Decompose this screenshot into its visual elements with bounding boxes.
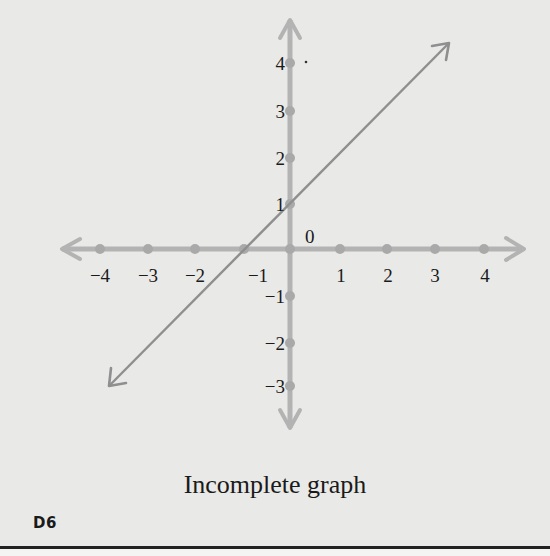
figure-caption: Incomplete graph — [0, 470, 550, 500]
x-tick-label: 4 — [480, 265, 490, 286]
y-tick-label: 4 — [276, 53, 286, 74]
x-tick-label: −4 — [90, 265, 111, 286]
x-tick-label: −3 — [138, 265, 158, 286]
coordinate-plane: −4 −3 −2 −1 1 2 3 4 0 4 3 2 1 −1 −2 −3 — [0, 0, 550, 470]
y-axis — [280, 20, 300, 428]
speck-mark — [305, 61, 308, 64]
y-tick-label: 3 — [276, 101, 286, 122]
x-tick-label: 1 — [336, 265, 346, 286]
x-tick-label: −1 — [248, 265, 268, 286]
page-reference: D6 — [33, 514, 57, 532]
y-tick-label: −3 — [265, 376, 285, 397]
x-tick-label: 3 — [430, 265, 440, 286]
y-tick-label: 2 — [276, 148, 286, 169]
x-tick-label: −2 — [185, 265, 205, 286]
y-tick-label: 1 — [276, 194, 286, 215]
bottom-band — [0, 549, 550, 556]
origin-label: 0 — [305, 226, 315, 247]
x-tick-label: 2 — [383, 265, 393, 286]
y-tick-label: −2 — [265, 333, 285, 354]
y-tick-label: −1 — [265, 286, 285, 307]
